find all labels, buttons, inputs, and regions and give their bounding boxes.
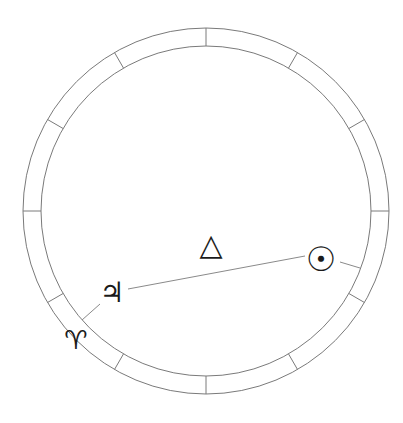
house-divider bbox=[48, 294, 64, 303]
trine-aspect-icon: △ bbox=[199, 230, 222, 260]
inner-ring bbox=[41, 46, 371, 376]
house-divider bbox=[48, 120, 64, 129]
house-divider bbox=[115, 53, 124, 69]
house-divider bbox=[115, 354, 124, 370]
house-divider bbox=[349, 120, 365, 129]
aries-icon: ♈ bbox=[64, 327, 87, 353]
jupiter-position-connector bbox=[82, 304, 100, 320]
house-divider bbox=[289, 53, 298, 69]
jupiter-icon: ♃ bbox=[99, 279, 124, 307]
chart-wheel bbox=[0, 0, 403, 423]
sun-position-connector bbox=[340, 262, 360, 268]
sun-icon: ☉ bbox=[306, 242, 336, 276]
house-divider bbox=[289, 354, 298, 370]
house-divider bbox=[349, 294, 365, 303]
